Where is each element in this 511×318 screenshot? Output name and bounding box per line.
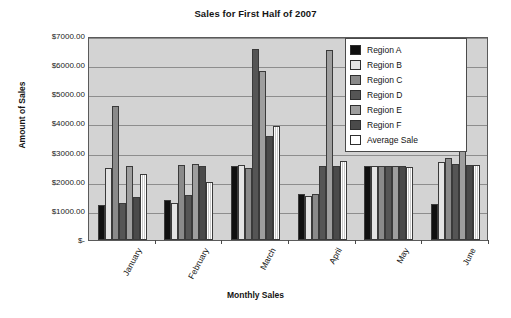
legend-item[interactable]: Region A [350,42,462,57]
legend-swatch-icon [350,60,361,70]
bar [266,136,273,240]
legend-swatch-icon [350,75,361,85]
sales-bar-chart: Sales for First Half of 2007 Amount of S… [0,0,511,318]
bar [340,161,347,240]
legend-item[interactable]: Region D [350,87,462,102]
bar [245,168,252,240]
bar [171,203,178,240]
bar [133,197,140,240]
bar [252,49,259,240]
bar [164,200,171,240]
bar [231,166,238,240]
y-tick-label: $7000.00 [0,32,85,41]
bar [312,194,319,240]
bar-group [89,38,156,240]
bar [466,165,473,240]
bar [298,194,305,240]
legend-label: Region C [367,75,402,85]
bar [238,165,245,240]
legend-swatch-icon [350,120,361,130]
bar [438,162,445,240]
bar [259,71,266,240]
legend-swatch-icon [350,90,361,100]
bar [305,196,312,240]
y-tick-label: $4000.00 [0,119,85,128]
x-tick-mark [155,240,156,244]
x-tick-mark [288,240,289,244]
bar [473,165,480,240]
legend-item[interactable]: Region E [350,102,462,117]
legend-item[interactable]: Region C [350,72,462,87]
bar [333,166,340,240]
bar [119,203,126,240]
bar [392,166,399,240]
y-tick-label: $2000.00 [0,178,85,187]
bar [112,106,119,240]
y-tick-label: $3000.00 [0,149,85,158]
bar [105,168,112,240]
bar [319,166,326,240]
y-tick-label: $6000.00 [0,61,85,70]
x-tick-mark [221,240,222,244]
bar [459,137,466,240]
bar [364,166,371,240]
bar [98,205,105,240]
legend-label: Region B [367,60,402,70]
bar [431,204,438,240]
bar [178,165,185,240]
legend-label: Average Sale [367,135,418,145]
legend-swatch-icon [350,105,361,115]
bar [406,167,413,240]
bar [273,126,280,240]
legend-label: Region D [367,90,402,100]
bar-group [222,38,289,240]
legend-swatch-icon [350,45,361,55]
bar [385,166,392,240]
bar [199,166,206,240]
legend-item[interactable]: Region B [350,57,462,72]
bar [140,174,147,240]
legend-label: Region E [367,105,402,115]
chart-title: Sales for First Half of 2007 [0,8,511,19]
chart-legend: Region ARegion BRegion CRegion DRegion E… [345,38,467,152]
x-tick-mark [421,240,422,244]
x-tick-mark [488,240,489,244]
bar [445,158,452,240]
legend-swatch-icon [350,135,361,145]
x-axis-title: Monthly Sales [0,290,511,300]
bar [326,50,333,240]
x-tick-mark [355,240,356,244]
y-tick-label: $1000.00 [0,207,85,216]
bar [452,164,459,240]
bar [371,166,378,240]
legend-label: Region A [367,45,402,55]
y-tick-label: $- [0,236,85,245]
bar [399,166,406,240]
bar [206,182,213,240]
y-tick-label: $5000.00 [0,90,85,99]
bar [185,195,192,240]
bar [192,164,199,240]
bar [126,166,133,240]
legend-item[interactable]: Region F [350,117,462,132]
bar [378,166,385,240]
legend-item[interactable]: Average Sale [350,132,462,147]
legend-label: Region F [367,120,402,130]
bar-group [156,38,223,240]
